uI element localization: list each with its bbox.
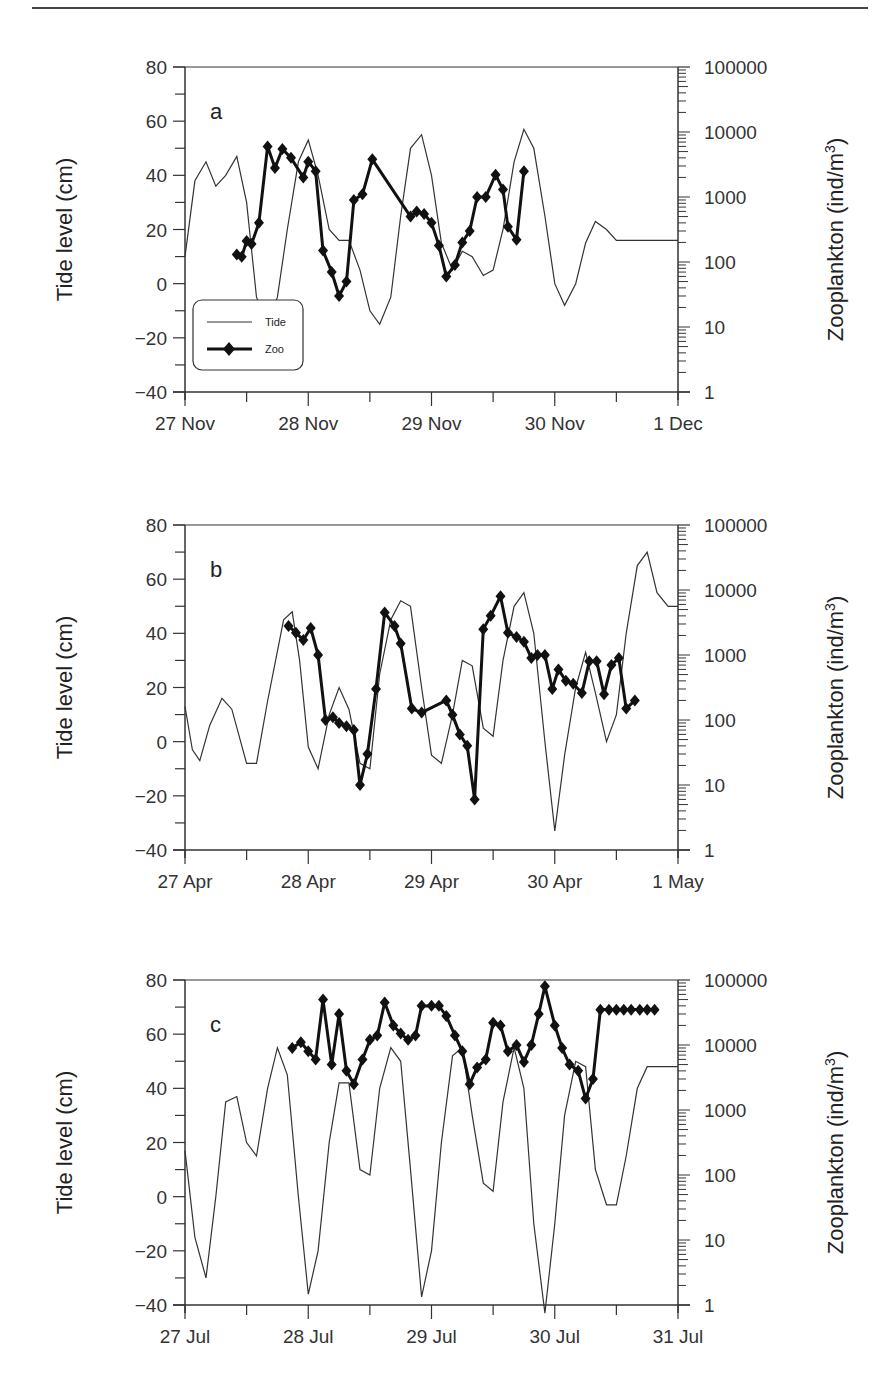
y-axis-title: Tide level (cm) <box>52 1071 77 1214</box>
figure: 806040200−20−4010000010000100010010127 N… <box>0 0 895 1398</box>
x-tick-label: 28 Apr <box>281 871 337 892</box>
y2-tick-label: 100000 <box>704 970 767 991</box>
y-tick-label: −20 <box>135 328 167 349</box>
zoo-marker <box>254 217 264 229</box>
y-tick-label: −20 <box>135 1241 167 1262</box>
zoo-line <box>292 986 654 1098</box>
y2-tick-label: 1 <box>704 382 715 403</box>
panel-b: 806040200−20−4010000010000100010010127 A… <box>52 515 848 892</box>
zoo-marker <box>503 627 513 639</box>
y-tick-label: 0 <box>156 732 167 753</box>
zoo-marker <box>270 162 280 174</box>
legend-zoo-label: Zoo <box>265 343 284 355</box>
zoo-line <box>237 146 524 296</box>
zoo-marker <box>550 1019 560 1031</box>
y-tick-label: 80 <box>146 515 167 536</box>
zoo-marker <box>496 1019 506 1031</box>
zoo-marker <box>534 1008 544 1020</box>
zoo-marker <box>417 1000 427 1012</box>
x-tick-label: 28 Jul <box>283 1326 334 1347</box>
y2-tick-label: 10 <box>704 317 725 338</box>
y-tick-label: 60 <box>146 569 167 590</box>
y-tick-label: 80 <box>146 57 167 78</box>
zoo-marker <box>592 655 602 667</box>
zoo-marker <box>318 245 328 257</box>
panel-letter: c <box>210 1012 221 1037</box>
zoo-marker <box>434 239 444 251</box>
y-tick-label: −40 <box>135 1295 167 1316</box>
y-tick-label: 60 <box>146 111 167 132</box>
y2-axis-title: Zooplankton (ind/m3) <box>822 138 848 341</box>
zoo-marker <box>380 997 390 1009</box>
y2-tick-label: 1 <box>704 840 715 861</box>
tide-line <box>185 1048 678 1313</box>
x-tick-label: 30 Nov <box>525 413 586 434</box>
zoo-marker <box>287 1042 297 1054</box>
zoo-marker <box>650 1004 660 1016</box>
panel-letter: b <box>210 557 222 582</box>
y2-tick-label: 10 <box>704 775 725 796</box>
y2-tick-label: 100 <box>704 710 736 731</box>
x-tick-label: 29 Jul <box>406 1326 457 1347</box>
zoo-marker <box>327 266 337 278</box>
zoo-marker <box>357 188 367 200</box>
zoo-marker <box>488 1017 498 1029</box>
y2-tick-label: 10000 <box>704 580 757 601</box>
zoo-marker <box>595 1004 605 1016</box>
zoo-marker <box>349 194 359 206</box>
x-tick-label: 27 Apr <box>158 871 214 892</box>
zoo-line <box>289 596 635 799</box>
y-tick-label: 20 <box>146 678 167 699</box>
zoo-marker <box>313 649 323 661</box>
zoo-marker <box>441 694 451 706</box>
zoo-marker <box>540 980 550 992</box>
y2-tick-label: 10 <box>704 1230 725 1251</box>
y2-tick-label: 1 <box>704 1295 715 1316</box>
zoo-marker <box>318 994 328 1006</box>
zoo-marker <box>540 649 550 661</box>
y2-tick-label: 10000 <box>704 122 757 143</box>
y-tick-label: 40 <box>146 165 167 186</box>
y2-tick-label: 1000 <box>704 645 746 666</box>
y-tick-label: −20 <box>135 786 167 807</box>
zoo-marker <box>371 683 381 695</box>
zoo-marker <box>334 1008 344 1020</box>
y2-tick-label: 100000 <box>704 57 767 78</box>
panel-a: 806040200−20−4010000010000100010010127 N… <box>52 57 848 434</box>
x-tick-label: 29 Nov <box>401 413 462 434</box>
y-tick-label: 60 <box>146 1024 167 1045</box>
y-tick-label: 80 <box>146 970 167 991</box>
y2-tick-label: 10000 <box>704 1035 757 1056</box>
x-tick-label: 1 Dec <box>653 413 703 434</box>
zoo-marker <box>327 1059 337 1071</box>
y-axis-title: Tide level (cm) <box>52 158 77 301</box>
y-tick-label: −40 <box>135 840 167 861</box>
y2-tick-label: 100000 <box>704 515 767 536</box>
x-tick-label: 1 May <box>652 871 704 892</box>
y-tick-label: 0 <box>156 274 167 295</box>
y2-tick-label: 100 <box>704 252 736 273</box>
zoo-marker <box>355 779 365 791</box>
y-tick-label: 20 <box>146 220 167 241</box>
y2-tick-label: 1000 <box>704 187 746 208</box>
zoo-marker <box>407 703 417 715</box>
y2-tick-label: 1000 <box>704 1100 746 1121</box>
y-tick-label: 20 <box>146 1133 167 1154</box>
y-tick-label: 40 <box>146 623 167 644</box>
x-tick-label: 27 Jul <box>160 1326 211 1347</box>
legend-tide-label: Tide <box>265 316 286 328</box>
zoo-marker <box>599 688 609 700</box>
y-axis-title: Tide level (cm) <box>52 616 77 759</box>
y2-axis-title: Zooplankton (ind/m3) <box>822 1051 848 1254</box>
y-tick-label: −40 <box>135 382 167 403</box>
y-tick-label: 40 <box>146 1078 167 1099</box>
zoo-marker <box>557 1042 567 1054</box>
zoo-marker <box>547 683 557 695</box>
y2-tick-label: 100 <box>704 1165 736 1186</box>
zoo-marker <box>519 165 529 177</box>
x-tick-label: 30 Jul <box>529 1326 580 1347</box>
panel-letter: a <box>210 99 223 124</box>
zoo-marker <box>588 1073 598 1085</box>
x-tick-label: 30 Apr <box>527 871 583 892</box>
panel-c: 806040200−20−4010000010000100010010127 J… <box>52 970 848 1347</box>
